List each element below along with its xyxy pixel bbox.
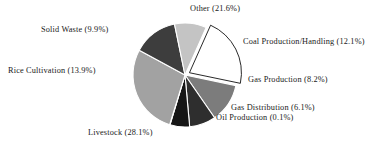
pie-label-gas-distribution: Gas Distribution (6.1%)	[231, 103, 315, 113]
pie-chart-figure: Other (21.6%) Solid Waste (9.9%) Rice Cu…	[0, 0, 391, 147]
pie-label-coal-production: Coal Production/Handling (12.1%)	[243, 37, 365, 47]
pie-label-solid-waste: Solid Waste (9.9%)	[41, 25, 108, 35]
pie-label-livestock: Livestock (28.1%)	[88, 128, 153, 138]
pie-label-oil-production: Oil Production (0.1%)	[216, 113, 293, 123]
pie-label-rice-cultivation: Rice Cultivation (13.9%)	[8, 66, 96, 76]
pie-label-gas-production: Gas Production (8.2%)	[248, 75, 328, 85]
pie-label-other: Other (21.6%)	[190, 4, 240, 14]
